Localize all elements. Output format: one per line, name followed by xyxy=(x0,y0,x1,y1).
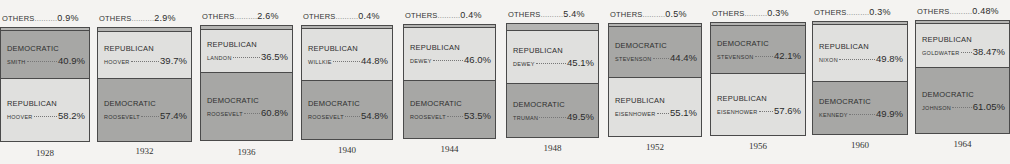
year-label: 1964 xyxy=(915,139,1010,149)
party-label: REPUBLICAN xyxy=(207,40,288,49)
party-label: DEMOCRATIC xyxy=(104,99,187,108)
party-label: DEMOCRATIC xyxy=(410,99,491,108)
year-column-1964: OTHERS..........0.48% REPUBLICAN GOLDWAT… xyxy=(915,0,1010,164)
others-text: OTHERS xyxy=(202,12,234,21)
dot-leader xyxy=(27,61,57,62)
candidate-name: WILLKIE xyxy=(308,59,332,65)
party-label: DEMOCRATIC xyxy=(717,39,801,48)
party-label: DEMOCRATIC xyxy=(615,41,697,50)
vote-percent: 54.8% xyxy=(361,110,388,121)
year-label: 1928 xyxy=(0,148,90,158)
vote-percent: 49.8% xyxy=(876,53,903,64)
upper-partition: REPUBLICAN DEWEY 46.0% xyxy=(404,28,495,80)
vote-percent: 39.7% xyxy=(160,55,187,66)
year-label: 1932 xyxy=(97,146,192,156)
vote-percent: 36.5% xyxy=(261,51,288,62)
candidate-name: KENNEDY xyxy=(819,112,848,118)
dot-leader xyxy=(345,116,360,117)
candidate-name: LANDON xyxy=(207,55,232,61)
party-label: REPUBLICAN xyxy=(308,44,388,53)
lower-partition: DEMOCRATIC ROOSEVELT 53.5% xyxy=(404,80,495,138)
vote-percent: 42.1% xyxy=(774,50,801,61)
others-text: OTHERS xyxy=(917,7,949,16)
party-label: DEMOCRATIC xyxy=(819,97,903,106)
vote-percent: 46.0% xyxy=(464,54,491,65)
dot-leader xyxy=(952,107,972,108)
dot-leader xyxy=(131,61,159,62)
dot-leader xyxy=(539,117,566,118)
party-label: DEMOCRATIC xyxy=(207,96,288,105)
lower-partition: REPUBLICAN EISENHOWER 55.1% xyxy=(609,77,701,136)
others-text: OTHERS xyxy=(610,10,642,19)
vote-share-box: DEMOCRATIC STEVENSON 44.4% REPUBLICAN EI… xyxy=(608,23,702,137)
dot-leader: .......... xyxy=(437,11,460,20)
upper-partition: REPUBLICAN DEWEY 45.1% xyxy=(507,31,598,83)
vote-share-box: REPUBLICAN WILLKIE 44.8% DEMOCRATIC ROOS… xyxy=(301,25,393,140)
others-label: OTHERS..........0.4% xyxy=(303,11,393,21)
party-label: REPUBLICAN xyxy=(922,35,1005,44)
lower-partition: DEMOCRATIC ROOSEVELT 60.8% xyxy=(201,72,292,140)
year-column-1932: OTHERS..........2.9% REPUBLICAN HOOVER 3… xyxy=(97,0,192,164)
vote-percent: 40.9% xyxy=(58,55,85,66)
candidate-name: ROOSEVELT xyxy=(104,114,140,120)
vote-percent: 57.4% xyxy=(160,110,187,121)
candidate-name: STEVENSON xyxy=(615,56,652,62)
others-percent: 0.4% xyxy=(358,11,379,21)
party-label: REPUBLICAN xyxy=(7,99,85,108)
year-column-1944: OTHERS..........0.4% REPUBLICAN DEWEY 46… xyxy=(403,0,496,164)
vote-share-box: REPUBLICAN NIXON 49.8% DEMOCRATIC KENNED… xyxy=(812,21,908,135)
dot-leader xyxy=(233,57,260,58)
others-label: OTHERS..........2.9% xyxy=(99,13,192,23)
party-label: REPUBLICAN xyxy=(104,44,187,53)
lower-partition: REPUBLICAN HOOVER 58.2% xyxy=(1,78,89,141)
dot-leader: .......... xyxy=(131,14,154,23)
candidate-name: ROOSEVELT xyxy=(308,114,344,120)
dot-leader xyxy=(657,113,669,114)
candidate-name: SMITH xyxy=(7,59,26,65)
upper-partition: REPUBLICAN WILLKIE 44.8% xyxy=(302,29,392,80)
dot-leader xyxy=(244,113,260,114)
vote-share-box: DEMOCRATIC STEVENSON 42.1% REPUBLICAN EI… xyxy=(710,22,806,136)
dot-leader: .......... xyxy=(949,7,972,16)
year-label: 1936 xyxy=(200,147,293,157)
others-text: OTHERS xyxy=(814,8,846,17)
dot-leader xyxy=(141,116,159,117)
vote-share-box: REPUBLICAN GOLDWATER 38.47% DEMOCRATIC J… xyxy=(915,20,1010,134)
others-percent: 0.5% xyxy=(665,9,686,19)
others-label: OTHERS..........2.6% xyxy=(202,11,293,21)
vote-percent: 61.05% xyxy=(973,101,1005,112)
upper-partition: DEMOCRATIC STEVENSON 44.4% xyxy=(609,27,701,77)
upper-partition: DEMOCRATIC STEVENSON 42.1% xyxy=(711,26,805,73)
party-label: REPUBLICAN xyxy=(717,94,801,103)
party-label: REPUBLICAN xyxy=(819,42,903,51)
candidate-name: ROOSEVELT xyxy=(207,111,243,117)
dot-leader xyxy=(34,116,57,117)
others-label: OTHERS..........0.4% xyxy=(405,10,496,20)
year-label: 1956 xyxy=(710,141,806,151)
others-percent: 0.9% xyxy=(57,13,78,23)
dot-leader xyxy=(755,56,773,57)
vote-percent: 44.8% xyxy=(361,55,388,66)
year-label: 1948 xyxy=(506,143,599,153)
candidate-name: EISENHOWER xyxy=(717,109,758,115)
party-label: REPUBLICAN xyxy=(513,46,594,55)
lower-partition: DEMOCRATIC ROOSEVELT 57.4% xyxy=(98,78,191,141)
year-label: 1960 xyxy=(812,140,908,150)
year-label: 1940 xyxy=(301,145,393,155)
vote-percent: 55.1% xyxy=(670,107,697,118)
dot-leader: .......... xyxy=(34,14,57,23)
party-label: REPUBLICAN xyxy=(410,43,491,52)
candidate-name: EISENHOWER xyxy=(615,111,656,117)
others-label: OTHERS..........0.3% xyxy=(712,8,806,18)
lower-partition: DEMOCRATIC ROOSEVELT 54.8% xyxy=(302,80,392,139)
upper-partition: REPUBLICAN LANDON 36.5% xyxy=(201,30,292,72)
candidate-name: HOOVER xyxy=(104,59,130,65)
lower-partition: REPUBLICAN EISENHOWER 57.6% xyxy=(711,73,805,135)
upper-partition: REPUBLICAN HOOVER 39.7% xyxy=(98,32,191,78)
lower-partition: DEMOCRATIC TRUMAN 49.5% xyxy=(507,83,598,137)
others-percent: 0.4% xyxy=(460,10,481,20)
upper-partition: REPUBLICAN NIXON 49.8% xyxy=(813,25,907,81)
lower-partition: DEMOCRATIC JOHNSON 61.05% xyxy=(916,67,1009,133)
candidate-name: DEWEY xyxy=(410,58,432,64)
candidate-name: ROOSEVELT xyxy=(410,114,446,120)
